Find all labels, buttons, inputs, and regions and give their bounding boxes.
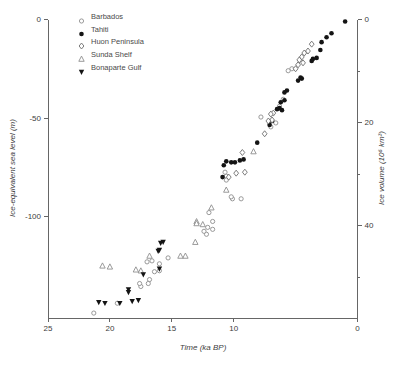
legend-item-huon-peninsula: Huon Peninsula bbox=[76, 36, 144, 49]
legend-label: Tahiti bbox=[91, 25, 109, 35]
filled-triangle-down-icon bbox=[76, 63, 87, 73]
legend-label: Bonaparte Gulf bbox=[91, 63, 141, 73]
series-tahiti bbox=[220, 19, 347, 179]
open-circle-icon bbox=[76, 12, 87, 22]
open-triangle-icon bbox=[76, 50, 87, 60]
legend-label: Barbados bbox=[91, 12, 123, 22]
svg-text:0: 0 bbox=[365, 15, 370, 24]
legend-item-bonaparte-gulf: Bonaparte Gulf bbox=[76, 61, 144, 74]
svg-text:0: 0 bbox=[37, 15, 42, 24]
svg-text:0: 0 bbox=[355, 324, 360, 333]
series-sunda-shelf bbox=[100, 149, 256, 273]
legend-label: Sunda Shelf bbox=[91, 50, 132, 60]
svg-text:10: 10 bbox=[229, 324, 238, 333]
open-diamond-icon bbox=[76, 37, 87, 47]
svg-text:15: 15 bbox=[167, 324, 176, 333]
chart-legend: Barbados Tahiti Huon Peninsula Sunda She… bbox=[76, 11, 144, 74]
svg-text:20: 20 bbox=[105, 324, 114, 333]
legend-item-tahiti: Tahiti bbox=[76, 24, 144, 37]
x-axis-label: Time (ka BP) bbox=[180, 343, 227, 352]
svg-text:-100: -100 bbox=[25, 212, 42, 221]
svg-text:-50: -50 bbox=[29, 114, 41, 123]
legend-item-barbados: Barbados bbox=[76, 11, 144, 24]
legend-label: Huon Peninsula bbox=[91, 37, 144, 47]
series-barbados bbox=[92, 67, 294, 316]
y-axis-label-left: Ice-equivalent sea level (m) bbox=[8, 119, 17, 217]
svg-text:25: 25 bbox=[44, 324, 53, 333]
svg-text:20: 20 bbox=[365, 118, 374, 127]
legend-item-sunda-shelf: Sunda Shelf bbox=[76, 49, 144, 62]
svg-text:40: 40 bbox=[365, 221, 374, 230]
chart-canvas: 2520151000-50-10002040 bbox=[0, 0, 399, 365]
y-axis-label-right: Ice volume (10⁶ km³) bbox=[377, 131, 386, 205]
filled-circle-icon bbox=[76, 25, 87, 35]
sea-level-ice-volume-chart: 2520151000-50-10002040 Barbados Tahiti H… bbox=[0, 0, 399, 365]
